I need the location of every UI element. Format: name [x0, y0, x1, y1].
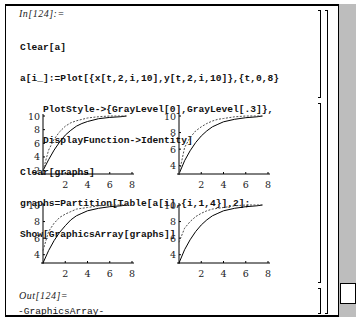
- y-tick-label: 4: [170, 249, 176, 260]
- group-cell-bracket[interactable]: [325, 10, 328, 314]
- output-text: -GraphicsArray-: [18, 306, 104, 317]
- x-tick-label: 2: [198, 268, 204, 279]
- solid-curve: [43, 205, 126, 263]
- solid-curve: [179, 116, 262, 174]
- y-tick-label: 8: [34, 216, 40, 227]
- x-tick-label: 8: [265, 179, 271, 190]
- y-tick-label: 4: [34, 249, 40, 260]
- y-tick-label: 10: [28, 111, 40, 122]
- x-tick-label: 2: [62, 179, 68, 190]
- output-cell-bracket[interactable]: [318, 288, 321, 314]
- code-line: a[i_]:=Plot[{x[t,2,i,10],y[t,2,i,10]},{t…: [20, 74, 279, 84]
- x-tick-label: 4: [220, 268, 226, 279]
- x-tick-label: 6: [107, 179, 113, 190]
- dashed-curve: [43, 116, 126, 171]
- x-tick-label: 8: [129, 268, 135, 279]
- input-cell-bracket[interactable]: [318, 10, 321, 98]
- scrollbar-thumb[interactable]: [340, 283, 356, 304]
- plot-a3[interactable]: 468102468: [20, 193, 140, 281]
- code-line: Clear[a]: [20, 43, 279, 53]
- y-tick-label: 4: [34, 151, 40, 162]
- y-tick-label: 6: [34, 138, 40, 149]
- y-tick-label: 8: [34, 124, 40, 135]
- input-label: In[124]:=: [19, 8, 65, 19]
- solid-curve: [179, 205, 262, 263]
- graphics-cell-bracket[interactable]: [318, 103, 321, 283]
- x-tick-label: 4: [84, 179, 90, 190]
- dashed-curve: [179, 205, 262, 242]
- x-tick-label: 6: [107, 268, 113, 279]
- x-tick-label: 2: [198, 179, 204, 190]
- vertical-scrollbar[interactable]: [338, 4, 356, 317]
- y-tick-label: 6: [34, 233, 40, 244]
- x-tick-label: 8: [265, 268, 271, 279]
- output-label: Out[124]=: [19, 290, 68, 301]
- plot-a4[interactable]: 468102468: [156, 193, 276, 281]
- y-tick-label: 4: [170, 160, 176, 171]
- dashed-curve: [179, 116, 262, 174]
- y-tick-label: 2: [34, 165, 40, 176]
- y-tick-label: 10: [28, 200, 40, 211]
- y-tick-label: 8: [170, 216, 176, 227]
- solid-curve: [43, 116, 126, 171]
- x-tick-label: 6: [243, 268, 249, 279]
- plot-a2[interactable]: 468102468: [156, 104, 276, 192]
- y-tick-label: 8: [170, 127, 176, 138]
- y-tick-label: 10: [164, 111, 176, 122]
- y-tick-label: 6: [170, 233, 176, 244]
- x-tick-label: 8: [129, 179, 135, 190]
- plot-a1[interactable]: 2468102468: [20, 104, 140, 192]
- x-tick-label: 2: [62, 268, 68, 279]
- y-tick-label: 10: [164, 200, 176, 211]
- x-tick-label: 4: [220, 179, 226, 190]
- x-tick-label: 4: [84, 268, 90, 279]
- x-tick-label: 6: [243, 179, 249, 190]
- y-tick-label: 6: [170, 144, 176, 155]
